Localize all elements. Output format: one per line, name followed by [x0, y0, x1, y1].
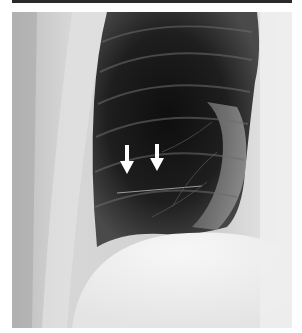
arrow-down-icon	[120, 145, 134, 174]
arrow-down-icon	[150, 144, 164, 171]
top-rule	[12, 0, 292, 3]
